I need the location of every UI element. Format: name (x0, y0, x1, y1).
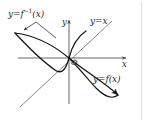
label-x-axis: x (122, 60, 127, 69)
label-origin: O (71, 59, 77, 67)
label-function: y=f(x) (93, 75, 120, 84)
label-inverse-function: y=f−1(x) (8, 8, 44, 19)
math-figure: y=f−1(x) y=x y=f(x) y x O (0, 0, 144, 122)
leader-line-secondary (36, 22, 56, 38)
page-edge-divider (141, 2, 142, 120)
leader-line-to-inverse-curve (24, 22, 36, 30)
identity-line-y-equals-x (20, 21, 112, 107)
label-identity-line: y=x (90, 17, 107, 26)
label-y-axis: y (62, 18, 67, 27)
